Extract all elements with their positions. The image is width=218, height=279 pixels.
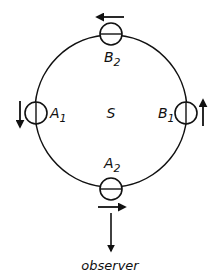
node-a2: A2 <box>98 155 125 207</box>
node-b1-subscript: 1 <box>168 112 175 125</box>
center-label: S <box>107 105 116 121</box>
node-a2-label: A <box>103 155 114 171</box>
svg-text:B1: B1 <box>158 105 175 125</box>
svg-text:A1: A1 <box>49 105 67 125</box>
node-a1: A1 <box>20 101 67 127</box>
node-b2-subscript: 2 <box>114 56 121 69</box>
node-b1-label: B <box>158 105 168 121</box>
svg-text:A2: A2 <box>103 155 121 175</box>
node-b2-label: B <box>104 49 114 65</box>
svg-text:B2: B2 <box>104 49 121 69</box>
node-b1: B1 <box>158 100 203 126</box>
observer-label: observer <box>81 258 140 273</box>
node-a1-label: A <box>49 105 60 121</box>
orbit-diagram: B2 A1 B1 A2 S observer <box>0 0 218 279</box>
node-a2-subscript: 2 <box>114 162 121 175</box>
node-a1-subscript: 1 <box>60 112 67 125</box>
node-b2: B2 <box>97 17 124 69</box>
